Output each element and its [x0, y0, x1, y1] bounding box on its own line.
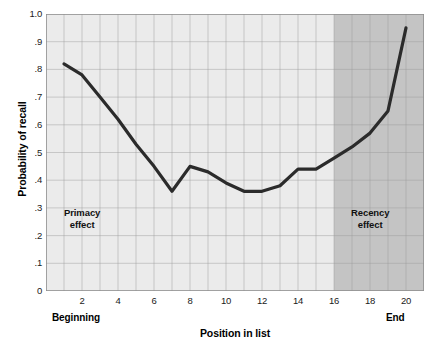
recency-effect-line1: Recency	[351, 207, 389, 219]
chart-canvas	[46, 14, 424, 291]
x-tick-label: 8	[175, 296, 205, 306]
y-tick-label: 1.0	[16, 9, 42, 19]
y-tick-label: .2	[16, 231, 42, 241]
recency-effect-line2: effect	[351, 219, 389, 231]
y-tick-label: .8	[16, 65, 42, 75]
y-tick-label: 0	[16, 286, 42, 296]
x-axis-title: Position in list	[45, 327, 425, 339]
y-tick-label: .6	[16, 120, 42, 130]
y-tick-label: .3	[16, 203, 42, 213]
primacy-effect-annotation: Primacy effect	[64, 207, 100, 231]
primacy-effect-line2: effect	[64, 219, 100, 231]
x-tick-label: 14	[283, 296, 313, 306]
recency-effect-annotation: Recency effect	[351, 207, 389, 231]
x-tick-label: 12	[247, 296, 277, 306]
x-axis-begin-label: Beginning	[52, 313, 100, 323]
x-tick-label: 2	[67, 296, 97, 306]
x-tick-label: 6	[139, 296, 169, 306]
y-tick-label: .4	[16, 175, 42, 185]
x-tick-label: 18	[355, 296, 385, 306]
primacy-effect-line1: Primacy	[64, 207, 100, 219]
y-tick-label: .5	[16, 148, 42, 158]
x-axis-end-label: End	[386, 313, 405, 323]
x-tick-label: 20	[391, 296, 421, 306]
x-tick-label: 4	[103, 296, 133, 306]
x-axis-tick-labels: 2468101214161820	[0, 296, 430, 312]
serial-position-curve-figure: Probability of recall 0.1.2.3.4.5.6.7.8.…	[0, 0, 430, 352]
y-tick-label: .7	[16, 92, 42, 102]
x-tick-label: 10	[211, 296, 241, 306]
y-tick-label: .9	[16, 37, 42, 47]
x-tick-label: 16	[319, 296, 349, 306]
y-tick-label: .1	[16, 259, 42, 269]
plot-area: Primacy effect Recency effect	[46, 14, 424, 291]
